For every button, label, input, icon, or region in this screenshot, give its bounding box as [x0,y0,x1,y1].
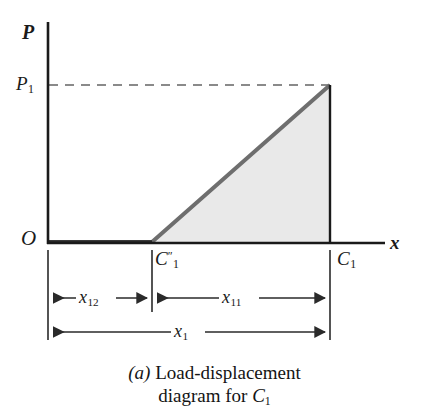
caption-symbol-subscript: 1 [265,395,271,408]
y-axis-label: P [22,22,34,42]
x1-subscript: 1 [183,330,189,342]
c1-label: C1 [337,249,356,271]
c1-subscript: 1 [350,258,356,271]
origin-label: O [21,228,36,249]
c1-double-prime-superscript: ″ [168,250,173,263]
diagram-canvas [0,0,429,410]
dimension-label-x1: x1 [174,322,188,342]
caption-tag: (a) [128,362,150,383]
x1-base: x [174,321,182,341]
c1-double-prime-subscript: 1 [173,258,179,271]
caption-subtitle: diagram for [158,385,247,406]
p1-subscript: 1 [28,83,34,96]
x11-base: x [222,287,230,307]
p1-base: P [16,73,28,94]
x12-subscript: 12 [88,296,99,308]
caption-title: Load-displacement [155,362,301,383]
x12-base: x [79,287,87,307]
p1-tick-label: P1 [16,74,34,96]
c1-base: C [337,248,350,269]
caption-line-1: (a) Load-displacement [0,361,429,384]
caption-symbol: C [252,385,265,406]
load-displacement-figure: P P1 O x C″1 C1 x12 x11 x1 (a) Load-disp… [0,0,429,410]
c1-double-prime-label: C″1 [155,249,179,271]
dimension-label-x11: x11 [222,288,241,308]
x11-subscript: 11 [231,296,242,308]
c1-double-prime-base: C [155,248,168,269]
caption-line-2: diagram for C1 [0,384,429,410]
x-axis-label: x [390,233,400,252]
dimension-label-x12: x12 [79,288,99,308]
figure-caption: (a) Load-displacement diagram for C1 [0,361,429,410]
